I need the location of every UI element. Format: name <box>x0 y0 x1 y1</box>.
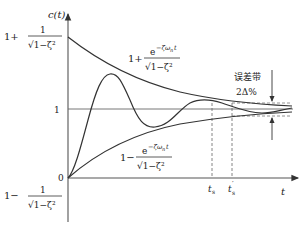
svg-text:1+: 1+ <box>4 31 19 42</box>
svg-text:′: ′ <box>232 180 234 188</box>
step-response-diagram: c(t) t 0 1 1+ 1 √1−ζ² 1− 1 √1−ζ² 1+ e −ζ… <box>0 0 307 228</box>
svg-text:1−: 1− <box>4 190 19 201</box>
svg-text:−ζω: −ζω <box>148 143 163 151</box>
svg-text:n: n <box>162 146 165 152</box>
svg-text:1: 1 <box>40 25 46 35</box>
svg-text:e: e <box>150 47 155 57</box>
origin-label: 0 <box>58 173 64 183</box>
lower-left-label: 1− 1 √1−ζ² <box>4 185 62 210</box>
upper-envelope-label: 1+ e −ζω n t √1−ζ² <box>128 44 180 72</box>
svg-text:t: t <box>166 143 169 151</box>
upper-left-label: 1+ 1 √1−ζ² <box>4 25 62 50</box>
x-axis-label: t <box>281 186 286 197</box>
error-band-label: 误差带 <box>234 71 261 82</box>
ts-prime-label: t ′ s <box>228 180 235 196</box>
svg-text:e: e <box>142 146 147 156</box>
error-band-value: 2Δ% <box>236 87 257 97</box>
svg-text:√1−ζ²: √1−ζ² <box>137 161 165 171</box>
svg-text:s: s <box>212 188 215 195</box>
unit-level-label: 1 <box>54 105 60 115</box>
svg-text:√1−ζ²: √1−ζ² <box>28 40 56 50</box>
svg-text:t: t <box>174 44 177 52</box>
step-response-curve <box>68 74 292 178</box>
svg-text:1+: 1+ <box>128 53 143 64</box>
y-axis-label: c(t) <box>48 9 66 20</box>
svg-text:s: s <box>232 189 235 196</box>
ts-label: t s <box>208 184 215 195</box>
svg-text:√1−ζ²: √1−ζ² <box>28 200 56 210</box>
svg-text:1−: 1− <box>120 152 135 163</box>
svg-text:√1−ζ²: √1−ζ² <box>145 62 173 72</box>
svg-text:−ζω: −ζω <box>156 44 171 52</box>
svg-text:1: 1 <box>40 185 46 195</box>
lower-envelope-curve <box>68 112 292 178</box>
lower-envelope-label: 1− e −ζω n t √1−ζ² <box>120 143 172 171</box>
svg-text:n: n <box>170 47 173 53</box>
